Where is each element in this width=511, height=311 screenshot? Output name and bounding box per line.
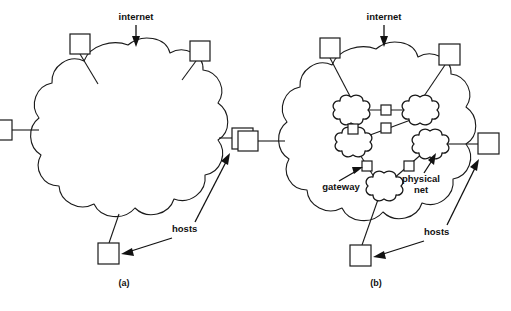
host-box-b-left[interactable] [238,131,258,151]
panel-b: internet gateway physical net hosts (b) [238,11,499,288]
host-box-a-top-left[interactable] [70,34,90,54]
hosts-arrow-head-b-right [470,159,479,171]
physical-net-label-line1-b: physical [402,173,440,184]
caption-b: (b) [370,278,382,288]
host-box-a-left[interactable] [0,120,12,140]
diagram-canvas: internet hosts (a) [0,0,511,311]
gateway-box-b-lower-left[interactable] [362,161,372,171]
hosts-arrow-head-a-bottom [121,248,134,256]
hosts-arrow-head-b-bottom [373,251,386,259]
gateway-label-b: gateway [322,181,360,192]
internet-label-b: internet [367,11,403,22]
gateway-box-b-left-vertical[interactable] [348,124,358,134]
host-box-a-bottom[interactable] [98,243,119,264]
internet-label-a: internet [119,11,155,22]
physical-net-label-line2-b: net [414,184,429,195]
internet-cloud-a [31,38,228,217]
host-box-b-top-left[interactable] [320,38,340,58]
hosts-arrow-line-a-bottom [128,238,172,252]
host-box-b-right[interactable] [478,133,499,154]
figure-container: internet hosts (a) [0,0,511,311]
host-box-b-top-right[interactable] [439,44,460,65]
caption-a: (a) [119,278,130,288]
hosts-label-b: hosts [424,226,449,237]
host-link-a-bottom [109,214,119,243]
gateway-box-b-diagonal[interactable] [381,123,391,133]
hosts-arrow-line-b-bottom [380,241,424,255]
hosts-label-a: hosts [172,223,197,234]
host-box-b-bottom[interactable] [350,245,371,266]
host-box-a-top-right[interactable] [190,41,210,61]
gateway-box-b-lower-right[interactable] [404,161,414,171]
gateway-box-b-top[interactable] [381,105,391,115]
panel-a: internet hosts (a) [0,11,253,288]
